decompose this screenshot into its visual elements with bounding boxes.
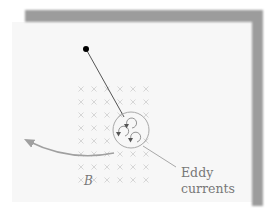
eddy-label-line2: currents xyxy=(181,181,235,196)
field-label-b: B xyxy=(83,174,93,188)
eddy-label-line1: Eddy xyxy=(181,165,214,180)
pendulum-eddy-current-diagram: B Eddy currents xyxy=(0,0,276,215)
diagram-canvas: B Eddy currents xyxy=(0,0,276,215)
pivot-point xyxy=(83,46,89,52)
